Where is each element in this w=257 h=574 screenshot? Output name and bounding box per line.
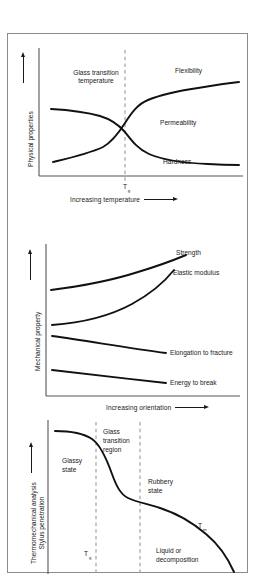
panel-mechanical-property: Mechanical property Strength Elastic mod… — [8, 224, 249, 412]
label-tm-thermal: T — [198, 522, 202, 529]
label-rubbery-state-line2: state — [148, 487, 163, 494]
label-tm-sub-thermal: m — [203, 527, 207, 532]
label-tg-physical: T — [123, 183, 127, 190]
label-strength: Strength — [176, 249, 201, 257]
label-tg-thermal: T — [84, 550, 88, 557]
curve-strength — [51, 255, 186, 290]
label-elastic-modulus: Elastic modulus — [173, 269, 220, 276]
curve-energy-to-break — [52, 370, 166, 383]
plot-thermomechanical-analysis: Glass transition region Glassy state Rub… — [8, 412, 249, 574]
label-liquid-or-decomposition-line2: decomposition — [156, 556, 199, 564]
label-energy-to-break: Energy to break — [170, 379, 217, 387]
curve-flexibility — [51, 109, 239, 165]
label-glassy-state-line1: Glassy — [62, 457, 83, 465]
label-glass-transition-line1: Glass transition — [73, 69, 119, 76]
label-glass-transition-region-line3: region — [103, 446, 122, 454]
panel-physical-properties: Physical properties Glass transition tem… — [8, 34, 249, 224]
label-flexibility: Flexibility — [175, 67, 203, 75]
curve-hardness — [53, 82, 239, 162]
label-liquid-or-decomposition-line1: Liquid or — [156, 547, 182, 555]
label-tg-sub-thermal: g — [89, 555, 92, 560]
plot-mechanical-property: Strength Elastic modulus Elongation to f… — [8, 224, 249, 412]
x-axis-arrow-physical — [144, 197, 178, 202]
x-axis-title-mechanical: Increasing orientation — [106, 404, 209, 411]
label-elongation-to-fracture: Elongation to fracture — [170, 349, 233, 357]
curve-stylus-penetration — [55, 431, 234, 572]
figure-frame: Physical properties Glass transition tem… — [7, 33, 248, 573]
label-tg-sub-physical: g — [128, 188, 131, 193]
label-rubbery-state-line1: Rubbery — [148, 478, 174, 486]
x-axis-arrow-mechanical — [175, 405, 209, 410]
label-glass-transition-line2: temperature — [78, 77, 114, 85]
label-permeability: Permeability — [160, 119, 197, 127]
x-axis-title-physical: Increasing temperature — [70, 196, 178, 203]
label-hardness: Hardness — [163, 158, 192, 165]
curve-elongation — [52, 336, 166, 353]
panel-thermomechanical-analysis: Thermomechanical analysis Stylus penetra… — [8, 412, 249, 574]
label-glass-transition-region-line2: transition — [103, 437, 130, 444]
label-glassy-state-line2: state — [62, 466, 77, 473]
label-glass-transition-region-line1: Glass — [103, 428, 121, 435]
